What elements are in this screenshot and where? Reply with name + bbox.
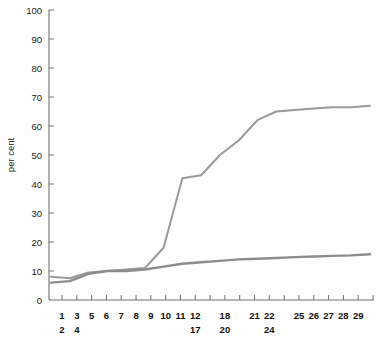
y-axis-title: per cent xyxy=(5,137,16,172)
y-tick-label: 10 xyxy=(31,266,42,277)
y-tick-label: 0 xyxy=(37,295,42,306)
y-axis-ticks xyxy=(49,10,54,271)
line-chart: 0102030405060708090100 12345678910111217… xyxy=(0,0,382,340)
y-tick-label: 50 xyxy=(31,150,42,161)
x-tick-label-top: 3 xyxy=(74,310,79,321)
series-line-lower xyxy=(51,254,370,282)
x-tick-label-bottom: 4 xyxy=(74,324,80,335)
x-tick-label-top: 8 xyxy=(133,310,138,321)
x-tick-label-top: 25 xyxy=(294,310,305,321)
x-axis-tick-labels: 1234567891011121718202122242526272829 xyxy=(59,310,363,335)
y-axis-tick-labels: 0102030405060708090100 xyxy=(26,5,42,306)
x-tick-label-top: 9 xyxy=(148,310,153,321)
x-tick-label-top: 7 xyxy=(119,310,124,321)
y-tick-label: 40 xyxy=(31,179,42,190)
x-tick-label-top: 11 xyxy=(175,310,186,321)
y-tick-label: 30 xyxy=(31,208,42,219)
x-tick-label-top: 10 xyxy=(160,310,171,321)
y-tick-label: 80 xyxy=(31,63,42,74)
x-tick-label-bottom: 24 xyxy=(264,324,275,335)
y-tick-label: 70 xyxy=(31,92,42,103)
x-tick-label-top: 18 xyxy=(220,310,231,321)
series-line-upper xyxy=(51,106,370,279)
x-tick-label-bottom: 2 xyxy=(59,324,64,335)
x-tick-label-top: 29 xyxy=(353,310,364,321)
x-tick-label-bottom: 17 xyxy=(190,324,201,335)
x-tick-label-top: 27 xyxy=(323,310,334,321)
x-axis-ticks xyxy=(62,295,373,300)
y-tick-label: 20 xyxy=(31,237,42,248)
x-tick-label-bottom: 20 xyxy=(220,324,231,335)
x-tick-label-top: 28 xyxy=(338,310,349,321)
x-tick-label-top: 21 xyxy=(249,310,260,321)
y-tick-label: 60 xyxy=(31,121,42,132)
chart-root: 0102030405060708090100 12345678910111217… xyxy=(0,0,382,340)
x-tick-label-top: 12 xyxy=(190,310,201,321)
y-tick-label: 90 xyxy=(31,34,42,45)
y-tick-label: 100 xyxy=(26,5,42,16)
x-tick-label-top: 22 xyxy=(264,310,275,321)
x-tick-label-top: 26 xyxy=(308,310,319,321)
x-tick-label-top: 1 xyxy=(59,310,65,321)
x-tick-label-top: 5 xyxy=(89,310,95,321)
data-series-group xyxy=(51,106,370,283)
x-tick-label-top: 6 xyxy=(104,310,109,321)
